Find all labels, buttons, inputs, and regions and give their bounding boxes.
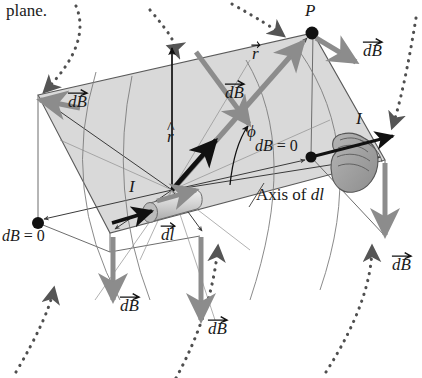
label-r-hat: r ^	[167, 128, 174, 145]
label-db-bottom-left: dB	[120, 297, 139, 314]
label-dl-vector: dl	[161, 226, 174, 243]
vector-arrow-accent	[207, 315, 229, 322]
label-db-upper-left: dB	[68, 93, 87, 110]
vector-arrow-accent	[160, 221, 176, 228]
vector-arrow-accent	[251, 40, 261, 47]
label-current-left: I	[129, 178, 135, 195]
label-axis-of-dl: Axis of dl	[256, 186, 324, 203]
label-db-top-right: dB	[363, 42, 382, 59]
figure-canvas: plane. P r r ^ ϕ dB = 0 dB = 0 I I	[0, 0, 422, 378]
caption-fragment: plane.	[6, 2, 47, 19]
vector-arrow-accent	[119, 292, 141, 299]
label-db-zero-right: dB = 0	[255, 138, 298, 154]
label-db-mid: dB	[225, 84, 244, 101]
point-dot-icon-right	[306, 152, 317, 163]
label-db-bottom-right: dB	[392, 256, 411, 273]
vector-arrow-accent	[362, 37, 384, 44]
label-db-bottom-mid: dB	[208, 320, 227, 337]
vector-arrow-accent	[391, 251, 413, 258]
label-r-vector: r	[252, 45, 259, 62]
label-db-zero-left: dB = 0	[2, 228, 45, 244]
vector-arrow-accent	[224, 79, 246, 86]
label-point-p: P	[305, 2, 315, 19]
label-current-right: I	[356, 110, 362, 127]
vector-arrow-accent	[67, 88, 89, 95]
hat-accent: ^	[167, 120, 174, 136]
